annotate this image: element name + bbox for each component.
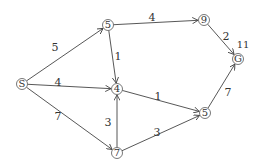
edge-weight-label: 4 [55, 76, 62, 89]
edge-weight-label: 3 [154, 126, 161, 139]
node-A: 5 [103, 19, 114, 31]
edge-E-C: 3 [105, 95, 118, 148]
node-B: 9 [199, 14, 210, 26]
edge-S-C: 4 [27, 76, 111, 89]
node-label: 5 [105, 19, 111, 30]
edge-line [113, 20, 198, 24]
node-S: S [17, 78, 28, 90]
edge-weight-label: 7 [55, 110, 62, 123]
node-D: 5 [200, 107, 211, 119]
edge-weight-label: 7 [225, 86, 232, 99]
edge-weight-label: 3 [105, 116, 112, 129]
edge-S-E: 7 [26, 87, 112, 149]
edge-S-A: 5 [27, 28, 104, 80]
edge-A-C: 1 [109, 30, 122, 83]
edge-weight-label: 1 [155, 90, 162, 103]
edge-weight-label: 4 [149, 11, 156, 24]
node-label: 5 [202, 107, 208, 118]
edge-E-D: 3 [122, 115, 200, 150]
edge-line [26, 87, 112, 149]
edge-A-B: 4 [113, 11, 198, 25]
edge-line [208, 24, 234, 54]
node-label: 4 [114, 83, 120, 94]
edge-line [27, 84, 111, 88]
node-G: G11 [233, 39, 250, 65]
edge-line [27, 28, 104, 80]
node-E: 7 [112, 147, 123, 159]
node-label: 7 [114, 147, 120, 158]
edge-D-G: 7 [208, 64, 235, 108]
edge-weight-label: 1 [115, 50, 122, 63]
edge-line [122, 115, 200, 150]
edge-weight-label: 2 [223, 30, 230, 43]
node-label: 9 [201, 14, 207, 25]
edge-B-G: 2 [208, 24, 234, 54]
edge-C-D: 1 [122, 90, 199, 111]
node-label: S [19, 78, 26, 89]
node-annotation: 11 [237, 39, 250, 50]
node-C: 4 [112, 83, 123, 95]
node-label: G [234, 53, 242, 64]
edge-weight-label: 5 [52, 41, 59, 54]
graph-diagram: 5474121337 S59G11457 [0, 0, 265, 168]
